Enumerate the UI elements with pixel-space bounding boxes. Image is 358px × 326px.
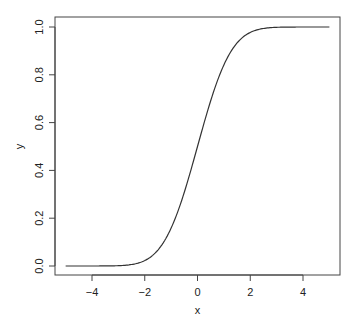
y-tick-label: 0.0: [33, 258, 45, 273]
data-line: [66, 27, 330, 266]
x-tick-label: −4: [86, 286, 99, 298]
x-tick-label: 2: [247, 286, 253, 298]
x-axis: −4−2024: [86, 275, 306, 298]
chart: −4−2024 0.00.20.40.60.81.0 x y: [0, 0, 358, 326]
y-tick-label: 0.4: [33, 163, 45, 178]
y-tick-label: 1.0: [33, 19, 45, 34]
y-axis-label: y: [13, 143, 25, 149]
y-tick-label: 0.6: [33, 115, 45, 130]
x-tick-label: 0: [194, 286, 200, 298]
x-tick-label: −2: [138, 286, 151, 298]
y-tick-label: 0.8: [33, 67, 45, 82]
x-axis-label: x: [195, 304, 201, 316]
x-tick-label: 4: [300, 286, 306, 298]
y-axis: 0.00.20.40.60.81.0: [33, 19, 55, 273]
y-tick-label: 0.2: [33, 211, 45, 226]
